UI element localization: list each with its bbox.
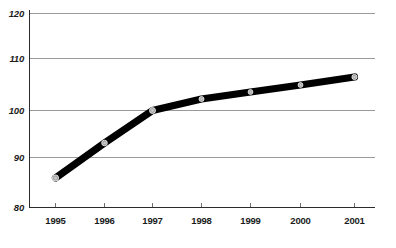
data-point-1998	[199, 97, 204, 102]
y-tick-label-100: 100	[9, 105, 25, 116]
y-axis-tick-labels: 120 110 100 90 80	[9, 8, 25, 213]
y-tick-label-80: 80	[14, 202, 25, 213]
gridlines	[29, 14, 375, 158]
y-tick-label-110: 110	[9, 53, 24, 64]
x-axis-tick-labels: 1995 1996 1997 1998 1999 2000 2001	[45, 215, 365, 226]
x-tick-label-1997: 1997	[142, 215, 162, 226]
y-tick-label-120: 120	[9, 8, 25, 19]
data-point-2001	[352, 74, 357, 79]
axes	[29, 10, 375, 208]
x-tick-label-1999: 1999	[240, 215, 260, 226]
data-series-index	[56, 77, 355, 178]
y-tick-label-90: 90	[14, 152, 25, 163]
data-point-1995	[52, 175, 58, 181]
data-point-markers	[52, 74, 357, 181]
chart-canvas: 120 110 100 90 80	[0, 0, 396, 248]
x-tick-label-1998: 1998	[191, 215, 211, 226]
series-line-path	[56, 77, 355, 178]
data-point-2000	[298, 83, 303, 88]
x-axis-ticks	[56, 203, 355, 207]
line-chart-figure: 120 110 100 90 80	[0, 0, 396, 248]
x-tick-label-1996: 1996	[94, 215, 114, 226]
x-tick-label-1995: 1995	[45, 215, 66, 226]
data-point-1996	[102, 140, 108, 146]
data-point-1997	[150, 108, 156, 114]
data-point-1999	[248, 90, 253, 95]
x-tick-label-2000: 2000	[290, 215, 310, 226]
x-tick-label-2001: 2001	[344, 215, 365, 226]
